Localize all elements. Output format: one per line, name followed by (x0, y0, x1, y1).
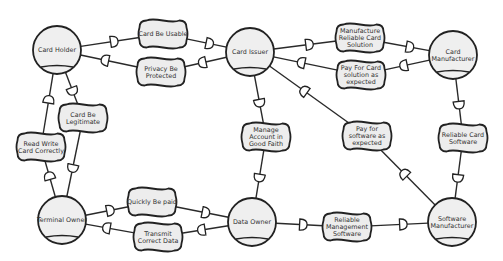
dependency-d-marker-icon (43, 171, 56, 181)
goal-reliable-card-software[interactable]: Reliable CardSoftware (439, 124, 488, 153)
actor-data-owner[interactable]: Data Owner (228, 198, 276, 246)
dependency-d-marker-icon (106, 204, 116, 216)
dependency-d-marker-icon (296, 56, 306, 68)
dependency-d-marker-icon (405, 41, 414, 53)
dependency-d-marker-icon (102, 222, 111, 234)
node-label: Card Be Usable (138, 30, 187, 38)
node-label: Manufacturer (432, 55, 475, 63)
goal-transmit-correct-data[interactable]: TransmitCorrect Data (134, 223, 183, 252)
dependency-d-marker-icon (452, 174, 464, 183)
node-label: Data Owner (233, 218, 272, 226)
dependency-d-marker-icon (299, 219, 307, 230)
node-label: Solution (347, 41, 373, 49)
strategic-dependency-diagram: Card Be UsablePrivacy BeProtectedManufac… (0, 0, 503, 261)
dependency-d-marker-icon (100, 54, 110, 66)
dependency-link (380, 150, 435, 205)
goal-privacy-be-protected[interactable]: Privacy BeProtected (137, 58, 186, 87)
node-label: expected (346, 78, 376, 86)
node-label: Protected (146, 72, 177, 80)
goal-manage-account-good-faith[interactable]: ManageAccount inGood Faith (242, 123, 291, 152)
node-label: expected (352, 139, 382, 147)
dependency-d-marker-icon (66, 164, 78, 174)
dependency-d-marker-icon (66, 86, 79, 97)
goal-reliable-management-software[interactable]: ReliableManagementSoftware (323, 213, 372, 242)
dependency-d-marker-icon (254, 98, 266, 107)
goal-pay-for-software[interactable]: Pay forsoftware asexpected (343, 122, 392, 151)
dependency-d-marker-icon (399, 60, 409, 72)
actor-card-holder[interactable]: Card Holder (33, 26, 81, 74)
goal-quickly-be-paid[interactable]: Quickly Be paid (127, 188, 177, 217)
dependency-d-marker-icon (205, 38, 215, 50)
goal-manufacture-reliable-card-solution[interactable]: ManufactureReliable CardSolution (336, 24, 385, 53)
node-label: Software (449, 138, 477, 146)
node-label: Card Holder (38, 46, 76, 54)
node-label: Legitimate (66, 118, 100, 126)
actor-terminal-owner[interactable]: Terminal Owner (36, 196, 87, 244)
goal-card-be-legitimate[interactable]: Card BeLegitimate (59, 104, 108, 133)
node-label: Software (333, 230, 361, 238)
dependency-d-marker-icon (305, 38, 314, 50)
dependency-d-marker-icon (201, 207, 211, 219)
dependency-d-marker-icon (110, 35, 119, 47)
goal-read-write-card-correctly[interactable]: Read WriteCard Correctly (17, 133, 66, 162)
node-label: Card Correctly (18, 147, 64, 155)
node-label: Card Issuer (232, 48, 269, 56)
node-label: Good Faith (249, 140, 283, 148)
dependency-d-marker-icon (253, 173, 265, 182)
dependency-d-marker-icon (43, 95, 55, 104)
node-label: Quickly Be paid (127, 198, 177, 206)
actor-card-issuer[interactable]: Card Issuer (226, 28, 274, 76)
actor-software-manufacturer[interactable]: SoftwareManufacturer (428, 198, 476, 246)
node-label: Manufacturer (431, 222, 474, 230)
dependency-d-marker-icon (197, 224, 206, 236)
goal-pay-for-card-solution[interactable]: Pay For Cardsolution asexpected (337, 61, 386, 90)
dependency-d-marker-icon (298, 84, 311, 97)
dependency-d-marker-icon (197, 57, 207, 69)
actor-card-manufacturer[interactable]: CardManufacturer (429, 31, 477, 79)
node-label: Correct Data (138, 237, 179, 245)
goal-card-be-usable[interactable]: Card Be Usable (138, 20, 187, 49)
node-label: Terminal Owner (36, 216, 87, 224)
dependency-d-marker-icon (399, 219, 407, 230)
dependency-d-marker-icon (453, 101, 465, 110)
